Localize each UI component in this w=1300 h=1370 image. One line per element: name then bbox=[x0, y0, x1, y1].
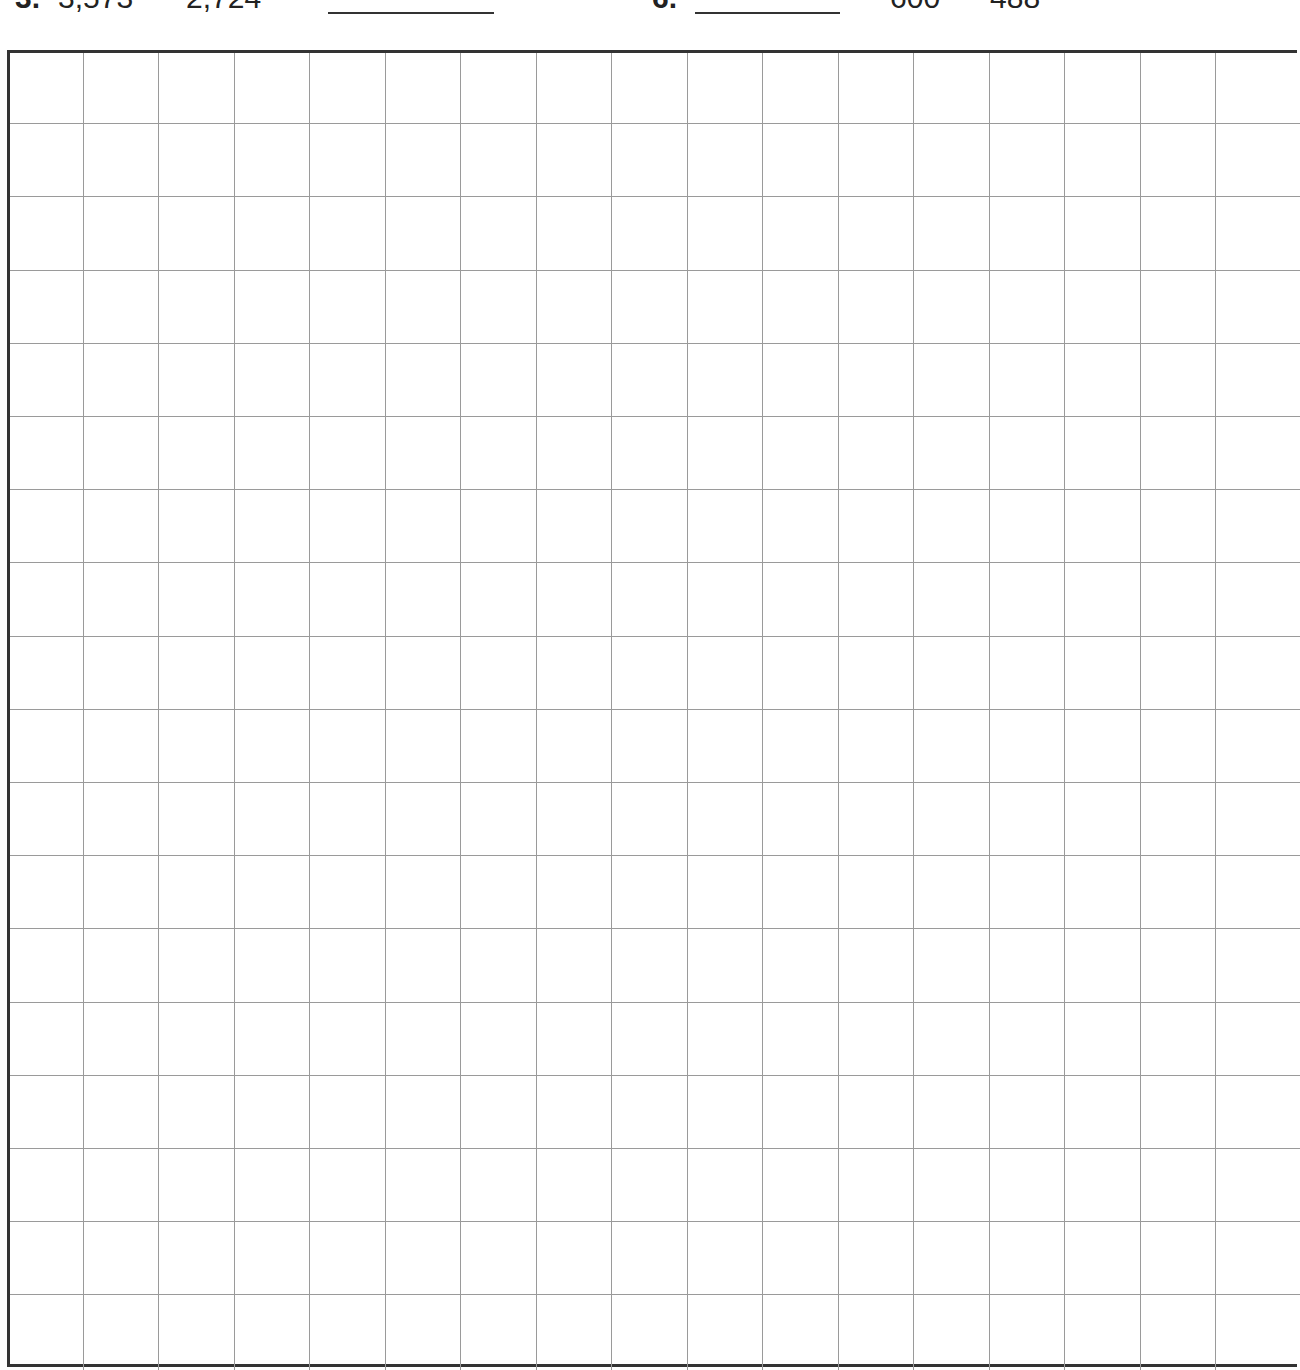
problem-number: 6. bbox=[652, 0, 677, 15]
problem-operand-1: 600 bbox=[890, 0, 990, 15]
problem-operand-2: 2,724 bbox=[186, 0, 328, 15]
answer-blank[interactable] bbox=[695, 12, 840, 14]
problem-operand-2: 488 bbox=[990, 0, 1090, 15]
problem-number: 3. bbox=[15, 0, 40, 15]
problem-3: 3. 3,573 2,724 bbox=[15, 0, 494, 18]
problem-operand-1: 3,573 bbox=[58, 0, 186, 15]
grid-lines bbox=[10, 53, 1300, 1370]
problem-6: 6. 600 488 bbox=[652, 0, 1090, 18]
answer-blank[interactable] bbox=[328, 12, 494, 14]
graph-paper-grid bbox=[7, 50, 1297, 1367]
